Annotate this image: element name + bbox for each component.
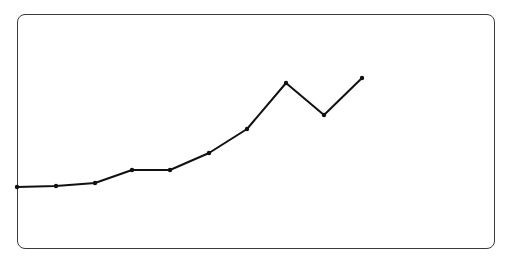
data-point bbox=[322, 113, 326, 117]
data-point bbox=[15, 185, 19, 189]
data-line bbox=[17, 78, 362, 187]
data-point bbox=[168, 168, 172, 172]
data-point bbox=[54, 184, 58, 188]
data-point bbox=[284, 81, 288, 85]
line-chart bbox=[0, 0, 515, 263]
data-point bbox=[245, 127, 249, 131]
data-point bbox=[207, 151, 211, 155]
data-point bbox=[93, 181, 97, 185]
data-points bbox=[15, 76, 364, 189]
data-point bbox=[360, 76, 364, 80]
data-point bbox=[130, 168, 134, 172]
